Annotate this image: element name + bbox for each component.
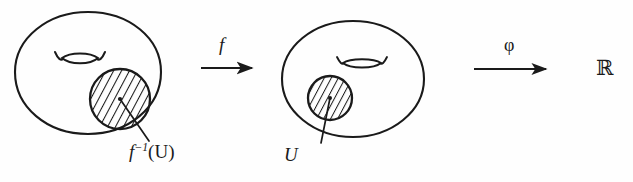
math-diagram: f−1(U) U f φ ℝ [0,0,633,182]
open-set-label: U [284,145,298,164]
codomain-surface [282,21,424,143]
codomain-handle-icon [337,57,387,68]
domain-surface [15,12,161,141]
map-phi-label: φ [504,36,514,54]
preimage-label-argument: (U) [148,141,174,162]
diagram-canvas [0,0,633,182]
domain-handle-icon [55,52,105,63]
preimage-label-exponent: −1 [134,141,148,154]
codomain-surface-outline [282,21,424,137]
map-f-label: f [219,35,224,54]
preimage-label: f−1(U) [129,142,175,161]
codomain-label: ℝ [596,58,613,79]
